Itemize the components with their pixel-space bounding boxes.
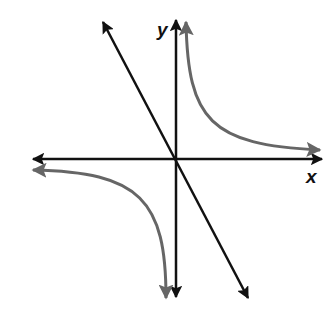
hyperbola-branch-q3 <box>33 170 166 298</box>
y-axis-label: y <box>157 20 168 39</box>
x-axis-label: x <box>306 167 317 186</box>
coordinate-graph <box>0 0 334 314</box>
hyperbola-branch-q1 <box>186 22 320 150</box>
